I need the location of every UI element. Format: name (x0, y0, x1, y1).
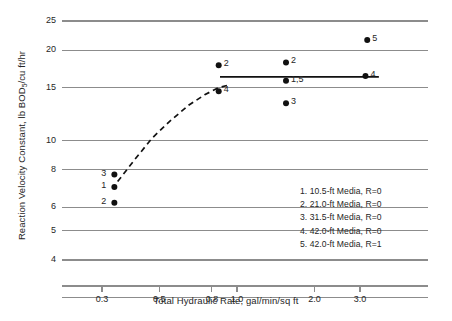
chart-plot-area (0, 0, 452, 321)
x-tick-label-0.5: 0.5 (142, 294, 176, 304)
x-tick-label-3.0: 3.0 (343, 294, 377, 304)
y-axis-title: Reaction Velocity Constant, lb BOD5/cu f… (16, 21, 27, 271)
x-tick-label-0.3: 0.3 (85, 294, 119, 304)
x-tick-label-2.0: 2.0 (298, 294, 332, 304)
data-point-label-5: 5 (372, 33, 377, 43)
legend-item-4: 4. 42.0-ft Media, R=0 (300, 226, 382, 236)
data-point-marker (111, 200, 117, 206)
data-point-label-2: 2 (291, 55, 296, 65)
data-point-label-2: 2 (101, 196, 106, 206)
data-point-marker (364, 37, 370, 43)
legend-item-5: 5. 42.0-ft Media, R=1 (300, 239, 382, 249)
data-point-marker (216, 62, 222, 68)
data-point-label-3: 3 (291, 96, 296, 106)
legend-item-2: 2. 21.0-ft Media, R=0 (300, 199, 382, 209)
y-tick-label-4: 4 (28, 254, 56, 264)
y-tick-label-6: 6 (28, 201, 56, 211)
chart-curve-trend-dashed (118, 85, 229, 181)
y-tick-label-15: 15 (28, 82, 56, 92)
data-point-marker (283, 78, 289, 84)
data-point-label-4: 4 (370, 69, 375, 79)
y-axis-title-prefix: Reaction Velocity Constant, lb BOD (16, 87, 27, 240)
y-axis-title-subscript: 5 (20, 83, 27, 87)
y-tick-label-10: 10 (28, 135, 56, 145)
data-point-label-1: 1 (101, 180, 106, 190)
y-axis-title-suffix: /cu ft/hr (16, 51, 27, 84)
y-tick-label-20: 20 (28, 44, 56, 54)
legend-item-3: 3. 31.5-ft Media, R=0 (300, 212, 382, 222)
legend-item-1: 1. 10.5-ft Media, R=0 (300, 186, 382, 196)
data-point-marker (362, 73, 368, 79)
data-point-label-2: 2 (224, 58, 229, 68)
data-point-marker (283, 100, 289, 106)
data-point-label-3: 3 (101, 168, 106, 178)
data-point-marker (216, 88, 222, 94)
y-tick-label-8: 8 (28, 164, 56, 174)
data-point-marker (111, 184, 117, 190)
chart-container: Reaction Velocity Constant, lb BOD5/cu f… (0, 0, 452, 321)
data-point-marker (111, 172, 117, 178)
y-tick-label-25: 25 (28, 15, 56, 25)
data-point-label-4: 4 (224, 84, 229, 94)
x-tick-label-1.0: 1.0 (220, 294, 254, 304)
data-point-marker (283, 59, 289, 65)
data-point-label-1-5: 1,5 (291, 74, 304, 84)
y-tick-label-5: 5 (28, 225, 56, 235)
